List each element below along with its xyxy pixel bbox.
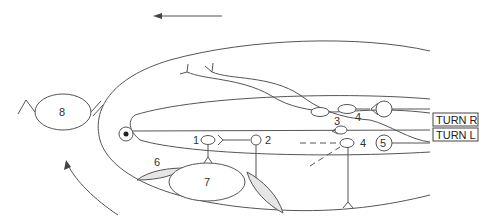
reference-point-icon xyxy=(119,127,133,141)
diagram-canvas: 3 4 TURN R TURN L 1 2 4 5 6 7 8 xyxy=(0,0,493,223)
neuron-top-cell xyxy=(376,101,392,117)
label-7: 7 xyxy=(204,176,210,188)
label-8: 8 xyxy=(59,106,65,118)
rotation-arrow-icon xyxy=(64,160,118,215)
turn-r-box: TURN R xyxy=(433,113,478,126)
turn-l-label: TURN L xyxy=(436,129,476,141)
fiber-lower xyxy=(187,72,430,113)
label-5: 5 xyxy=(380,137,386,149)
turn-l-box: TURN L xyxy=(433,128,478,141)
label-2: 2 xyxy=(265,134,271,146)
lens-6-right xyxy=(247,172,283,213)
label-6: 6 xyxy=(154,156,160,168)
label-3: 3 xyxy=(334,115,340,127)
direction-arrow-icon xyxy=(153,13,222,19)
label-4-bottom: 4 xyxy=(360,137,366,149)
label-4-top: 4 xyxy=(355,111,361,123)
fiber-upper xyxy=(212,72,430,142)
label-1: 1 xyxy=(193,134,199,146)
turn-r-label: TURN R xyxy=(436,114,478,126)
